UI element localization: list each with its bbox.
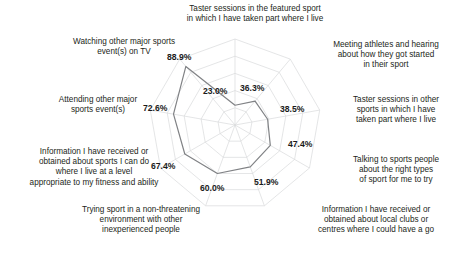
value-label-taster-other: 38.5% (280, 104, 304, 114)
axis-label-taster-other: Taster sessions in other sports in which… (336, 95, 456, 126)
value-label-talking-sports-people: 47.4% (288, 139, 312, 149)
value-label-attending-events: 72.6% (143, 103, 167, 113)
axis-label-non-threatening: Trying sport in a non-threatening enviro… (56, 205, 226, 236)
value-label-taster-featured: 23.0% (203, 86, 227, 96)
value-label-meeting-athletes: 36.3% (240, 83, 264, 93)
value-label-info-local-clubs: 51.9% (254, 177, 278, 187)
radar-chart: Taster sessions in the featured sport in… (0, 0, 456, 257)
axis-label-meeting-athletes: Meeting athletes and hearing about how t… (316, 40, 456, 71)
value-label-watching-tv: 88.9% (167, 52, 191, 62)
value-label-non-threatening: 60.0% (200, 183, 224, 193)
value-label-info-sports-level: 67.4% (151, 161, 175, 171)
axis-label-talking-sports-people: Talking to sports people about the right… (336, 155, 456, 186)
axis-label-taster-featured: Taster sessions in the featured sport in… (160, 4, 350, 24)
axis-label-info-local-clubs: Information I have received or obtained … (296, 205, 456, 236)
